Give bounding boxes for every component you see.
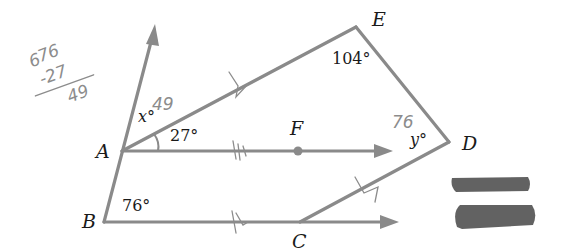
- label-D: D: [461, 132, 477, 154]
- label-F: F: [289, 117, 304, 139]
- angle-B: 76°: [122, 196, 150, 215]
- arrow-icon: [146, 24, 159, 46]
- handwritten-calculation: 6 76 -27 49: [20, 32, 102, 117]
- handwritten-x-answer: 49: [152, 94, 174, 114]
- angle-y: y°: [409, 130, 427, 149]
- redaction-mark-1: [452, 177, 531, 192]
- label-A: A: [94, 140, 110, 162]
- ray-BC: [104, 215, 399, 229]
- redaction-mark-2: [455, 205, 535, 229]
- angle-FAE: 27°: [170, 126, 198, 145]
- ray-AF: [122, 144, 393, 158]
- geometry-diagram: A B C D E F 104° 27° 76° x° y° 49 76 6 7…: [0, 0, 569, 251]
- angle-E: 104°: [332, 49, 371, 68]
- label-B: B: [81, 210, 96, 232]
- point-F: [294, 147, 303, 156]
- label-C: C: [292, 230, 307, 251]
- arrow-icon: [380, 215, 399, 229]
- arrow-icon: [374, 144, 393, 158]
- label-E: E: [371, 8, 386, 30]
- handwritten-y-answer: 76: [392, 112, 414, 132]
- angle-arc-A: [154, 134, 159, 151]
